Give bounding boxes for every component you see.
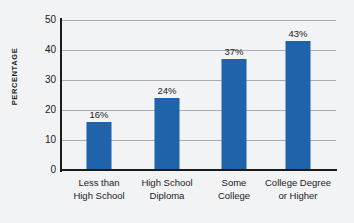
bar-value-label: 37% <box>224 47 243 57</box>
y-axis-line <box>60 18 62 172</box>
bar-value-label: 16% <box>89 110 108 120</box>
y-tick-label: 10 <box>34 135 56 145</box>
y-tick-label: 30 <box>34 75 56 85</box>
category-label: College Degree or Higher <box>256 176 340 202</box>
bar[interactable] <box>222 59 247 170</box>
y-tick-label: 20 <box>34 105 56 115</box>
bar-value-label: 24% <box>157 86 176 96</box>
bar-chart: PERCENTAGE 50 40 30 20 10 0 16% 24% 37% … <box>0 0 354 223</box>
x-axis-line <box>60 169 337 171</box>
category-label-line: College Degree <box>256 176 340 189</box>
y-axis-tick-labels: 50 40 30 20 10 0 <box>30 0 56 223</box>
bar-slot: 24% <box>136 20 198 170</box>
y-tick-label: 0 <box>34 165 56 175</box>
y-axis-title: PERCENTAGE <box>10 44 19 110</box>
bar-slot: 43% <box>267 20 329 170</box>
plot-area: 16% 24% 37% 43% <box>62 20 336 170</box>
bar-slot: 16% <box>68 20 130 170</box>
category-label-line: or Higher <box>256 189 340 202</box>
bar-value-label: 43% <box>288 29 307 39</box>
bar[interactable] <box>87 122 112 170</box>
bar[interactable] <box>286 41 311 170</box>
bar-slot: 37% <box>203 20 265 170</box>
y-tick-label: 50 <box>34 15 56 25</box>
bar[interactable] <box>155 98 180 170</box>
y-tick-label: 40 <box>34 45 56 55</box>
x-axis-category-labels: Less than High School High School Diplom… <box>62 176 336 216</box>
